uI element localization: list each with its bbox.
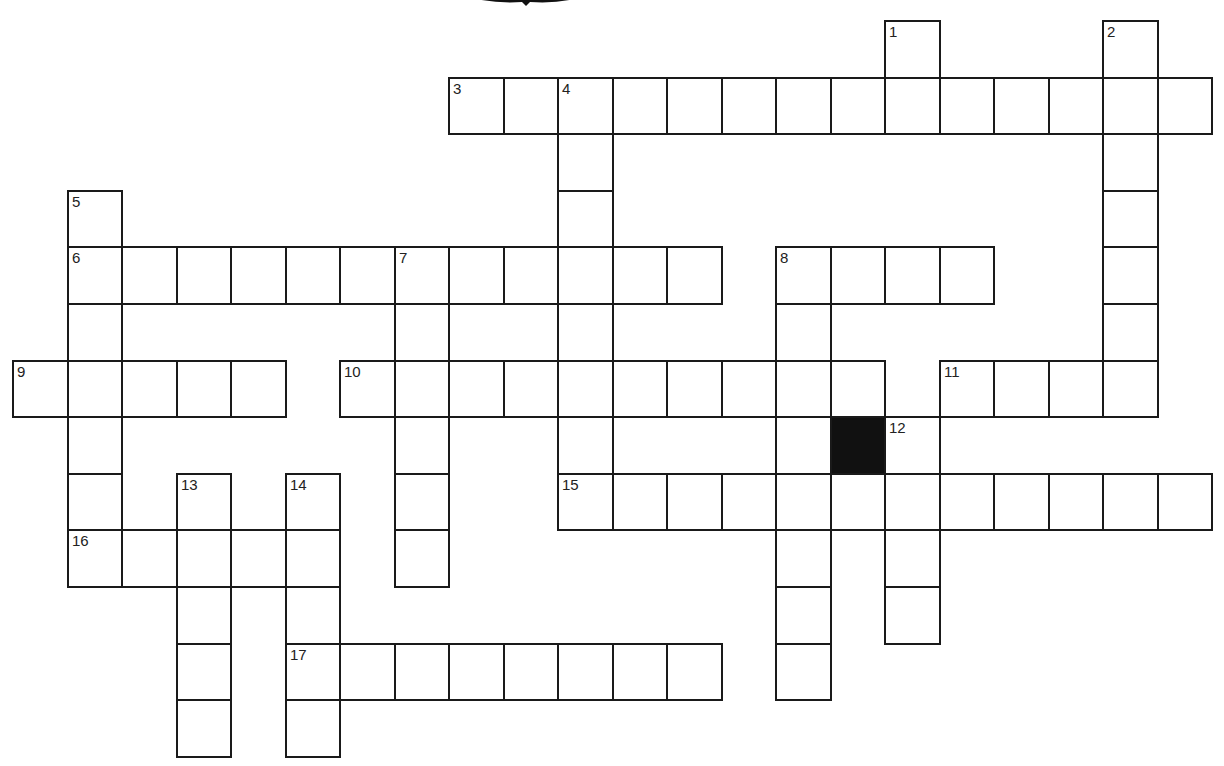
cell-letter-input[interactable] [886,588,939,643]
cell-letter-input[interactable] [505,248,557,303]
crossword-cell[interactable] [1102,360,1159,418]
cell-letter-input[interactable] [69,531,121,586]
crossword-cell[interactable] [121,360,178,418]
crossword-cell[interactable] [666,473,723,531]
crossword-cell[interactable] [557,416,614,475]
crossword-cell[interactable] [394,416,450,475]
cell-letter-input[interactable] [995,362,1048,416]
crossword-cell[interactable]: 5 [67,190,123,248]
crossword-cell[interactable] [557,246,614,305]
cell-letter-input[interactable] [832,362,884,416]
cell-letter-input[interactable] [777,305,830,360]
cell-letter-input[interactable] [668,248,721,303]
cell-letter-input[interactable] [1104,22,1157,77]
cell-letter-input[interactable] [886,22,939,77]
crossword-cell[interactable] [285,699,341,758]
cell-letter-input[interactable] [614,645,666,699]
cell-letter-input[interactable] [69,475,121,529]
crossword-cell[interactable] [993,360,1050,418]
crossword-cell[interactable] [993,77,1050,135]
crossword-cell[interactable]: 4 [557,77,614,135]
cell-letter-input[interactable] [341,362,394,416]
crossword-cell[interactable]: 1 [884,20,941,79]
cell-letter-input[interactable] [69,248,121,303]
cell-letter-input[interactable] [941,79,993,133]
cell-letter-input[interactable] [287,475,339,529]
crossword-cell[interactable] [394,529,450,588]
cell-letter-input[interactable] [886,475,939,529]
cell-letter-input[interactable] [886,418,939,473]
crossword-cell[interactable] [612,643,668,701]
cell-letter-input[interactable] [886,531,939,586]
crossword-cell[interactable] [1048,473,1104,531]
cell-letter-input[interactable] [396,645,448,699]
crossword-cell[interactable]: 6 [67,246,123,305]
cell-letter-input[interactable] [341,248,394,303]
cell-letter-input[interactable] [777,79,830,133]
cell-letter-input[interactable] [1104,305,1157,360]
cell-letter-input[interactable] [941,475,993,529]
crossword-cell[interactable] [394,360,450,418]
cell-letter-input[interactable] [832,475,884,529]
cell-letter-input[interactable] [723,475,775,529]
cell-letter-input[interactable] [450,248,503,303]
cell-letter-input[interactable] [450,645,503,699]
cell-letter-input[interactable] [777,362,830,416]
cell-letter-input[interactable] [777,645,830,699]
cell-letter-input[interactable] [559,305,612,360]
cell-letter-input[interactable] [559,475,612,529]
cell-letter-input[interactable] [995,79,1048,133]
cell-letter-input[interactable] [559,362,612,416]
cell-letter-input[interactable] [232,531,285,586]
cell-letter-input[interactable] [14,362,67,416]
crossword-cell[interactable] [121,246,178,305]
crossword-cell[interactable] [1102,473,1159,531]
cell-letter-input[interactable] [178,248,230,303]
cell-letter-input[interactable] [287,531,339,586]
cell-letter-input[interactable] [396,362,448,416]
crossword-cell[interactable] [503,360,559,418]
cell-letter-input[interactable] [1104,192,1157,246]
crossword-cell[interactable] [230,360,287,418]
crossword-cell[interactable] [121,529,178,588]
crossword-cell[interactable] [612,246,668,305]
crossword-cell[interactable] [1157,77,1213,135]
crossword-cell[interactable] [230,246,287,305]
crossword-cell[interactable] [394,643,450,701]
crossword-cell[interactable] [884,77,941,135]
cell-letter-input[interactable] [287,248,339,303]
crossword-cell[interactable]: 3 [448,77,505,135]
cell-letter-input[interactable] [450,79,503,133]
crossword-cell[interactable] [230,529,287,588]
cell-letter-input[interactable] [941,362,993,416]
crossword-cell[interactable] [1102,190,1159,248]
cell-letter-input[interactable] [777,418,830,473]
crossword-cell[interactable] [285,529,341,588]
crossword-cell[interactable] [176,360,232,418]
cell-letter-input[interactable] [232,248,285,303]
cell-letter-input[interactable] [69,362,121,416]
cell-letter-input[interactable] [1159,475,1211,529]
crossword-cell[interactable] [448,246,505,305]
cell-letter-input[interactable] [178,701,230,756]
cell-letter-input[interactable] [287,588,339,643]
cell-letter-input[interactable] [1050,362,1102,416]
cell-letter-input[interactable] [886,248,939,303]
cell-letter-input[interactable] [1104,135,1157,190]
crossword-cell[interactable] [176,586,232,645]
crossword-cell[interactable] [612,77,668,135]
cell-letter-input[interactable] [396,418,448,473]
cell-letter-input[interactable] [559,645,612,699]
cell-letter-input[interactable] [178,588,230,643]
cell-letter-input[interactable] [559,192,612,246]
crossword-cell[interactable]: 10 [339,360,396,418]
crossword-cell[interactable] [176,643,232,701]
cell-letter-input[interactable] [178,475,230,529]
crossword-cell[interactable]: 11 [939,360,995,418]
cell-letter-input[interactable] [559,135,612,190]
cell-letter-input[interactable] [941,248,993,303]
cell-letter-input[interactable] [1050,79,1102,133]
crossword-cell[interactable] [1048,360,1104,418]
cell-letter-input[interactable] [723,362,775,416]
cell-letter-input[interactable] [777,588,830,643]
